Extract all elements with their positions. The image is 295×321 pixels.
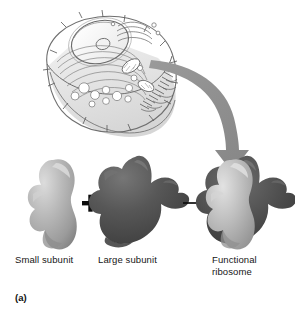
ribosome-assembly-figure: Small subunit Large subunit Functional r…	[0, 0, 295, 321]
small-subunit-label: Small subunit	[15, 254, 73, 266]
functional-ribosome-label: Functional ribosome	[212, 254, 257, 277]
large-subunit-label: Large subunit	[98, 254, 157, 266]
panel-caption: (a)	[15, 292, 27, 303]
